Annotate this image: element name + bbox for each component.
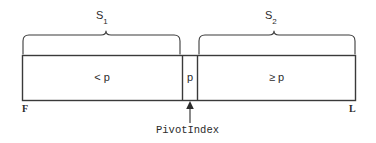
brace-label-s1-subscript: 1 xyxy=(103,17,107,26)
brace-s1 xyxy=(23,31,180,54)
partition-diagram: S1 S2 < p p ≥ p F L PivotIndex xyxy=(0,0,376,143)
pivot-index-label: PivotIndex xyxy=(156,124,219,136)
brace-label-s2: S2 xyxy=(265,9,277,24)
endpoint-label-first: F xyxy=(22,103,28,114)
brace-s2 xyxy=(199,31,355,54)
brace-label-s1: S1 xyxy=(96,9,108,24)
cell-pivot-label: p xyxy=(183,71,197,83)
brace-label-s2-subscript: 2 xyxy=(272,17,276,26)
cell-left-partition-label: < p xyxy=(22,71,182,83)
pivot-arrow xyxy=(186,101,194,123)
cell-right-partition-label: ≥ p xyxy=(198,71,355,83)
endpoint-label-last: L xyxy=(349,103,356,114)
